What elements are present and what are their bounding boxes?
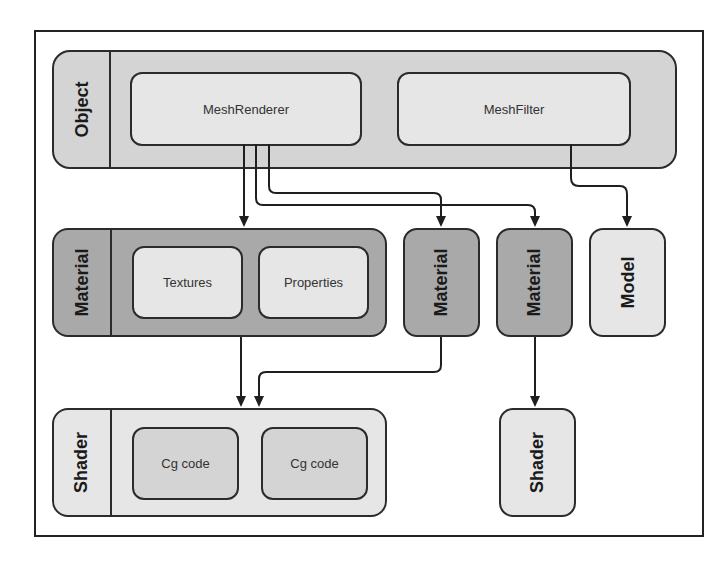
material-group: Material Textures Properties [52, 228, 387, 337]
textures-box: Textures [132, 246, 243, 319]
object-label: Object [54, 52, 109, 167]
material-group-label: Material [54, 230, 110, 335]
meshrenderer-box: MeshRenderer [130, 72, 362, 146]
properties-box: Properties [258, 246, 369, 319]
shader-group-divider [110, 410, 112, 515]
material-group-divider [110, 230, 112, 335]
material-2-box: Material [403, 228, 480, 337]
cg-code-box-2: Cg code [261, 427, 368, 500]
object-divider [109, 52, 111, 167]
cg-code-box-1: Cg code [132, 427, 239, 500]
model-box: Model [589, 228, 666, 337]
object-group: Object MeshRenderer MeshFilter [52, 50, 677, 169]
material-3-box: Material [496, 228, 573, 337]
meshfilter-box: MeshFilter [397, 72, 631, 146]
shader-group: Shader Cg code Cg code [52, 408, 387, 517]
shader-group-label: Shader [54, 410, 110, 515]
shader-2-box: Shader [499, 408, 576, 517]
